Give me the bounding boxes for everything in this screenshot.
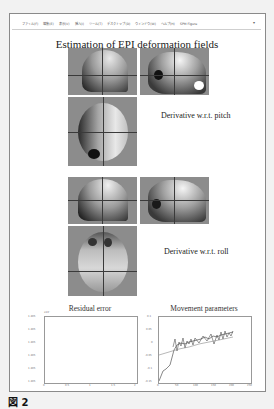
pitch-label: Derivative w.r.t. pitch bbox=[161, 111, 230, 120]
ytick: 0.1 bbox=[147, 315, 151, 318]
ytick: -0.05 bbox=[145, 354, 152, 357]
ytick: 0.05 bbox=[146, 328, 152, 331]
figure-caption: 図 2 bbox=[8, 394, 28, 409]
ytick: 1.405 bbox=[28, 315, 35, 318]
xtick: 2 bbox=[134, 384, 136, 387]
menu-file[interactable]: ファイル(F) bbox=[22, 21, 38, 26]
menu-help[interactable]: ヘルプ(H) bbox=[161, 21, 175, 26]
ytick: 1.405 bbox=[28, 380, 35, 383]
roll-derivative-axial bbox=[68, 226, 137, 296]
ytick: 1.405 bbox=[28, 367, 35, 370]
movement-parameters-title: Movement parameters bbox=[158, 304, 250, 313]
deformation-field-axial bbox=[68, 97, 137, 166]
xtick: 150 bbox=[211, 384, 216, 387]
menu-tools[interactable]: ツール(T) bbox=[89, 21, 102, 26]
xtick: 1.5 bbox=[111, 384, 115, 387]
deformation-field-sagittal bbox=[68, 48, 137, 95]
xtick: 200 bbox=[229, 384, 234, 387]
roll-derivative-coronal bbox=[140, 177, 209, 224]
roll-label: Derivative w.r.t. roll bbox=[164, 247, 229, 256]
ytick: 1.405 bbox=[28, 341, 35, 344]
movement-plot bbox=[159, 317, 251, 383]
ytick: 0 bbox=[151, 341, 153, 344]
menu-window[interactable]: ウィンドウ(W) bbox=[135, 21, 156, 26]
menu-bar: ファイル(F) 編集(E) 表示(V) 挿入(I) ツール(T) デスクトップ(… bbox=[12, 18, 261, 30]
xtick: 100 bbox=[193, 384, 198, 387]
menu-view[interactable]: 表示(V) bbox=[59, 21, 70, 26]
menu-edit[interactable]: 編集(E) bbox=[43, 21, 54, 26]
xtick: 0 bbox=[43, 384, 45, 387]
ytick: -0.15 bbox=[145, 380, 152, 383]
deformation-field-coronal bbox=[140, 48, 209, 95]
roll-derivative-sagittal bbox=[68, 177, 137, 224]
ytick: 1.405 bbox=[28, 328, 35, 331]
menu-desktop[interactable]: デスクトップ(D) bbox=[107, 21, 130, 26]
xtick: 0 bbox=[157, 384, 159, 387]
figure-title: Estimation of EPI deformation fields bbox=[0, 38, 274, 50]
xtick: 1 bbox=[89, 384, 91, 387]
movement-parameters-axes bbox=[158, 316, 252, 384]
xtick: 50 bbox=[175, 384, 178, 387]
menu-spm-figure[interactable]: SPM Figure bbox=[180, 22, 197, 26]
xtick: 250 bbox=[247, 384, 252, 387]
chevron-down-icon[interactable]: ▾ bbox=[253, 20, 255, 25]
residual-error-title: Residual error bbox=[44, 304, 136, 313]
xtick: 0.5 bbox=[65, 384, 69, 387]
residual-exponent: x10⁻ bbox=[44, 311, 50, 314]
residual-error-axes bbox=[44, 316, 138, 384]
menu-insert[interactable]: 挿入(I) bbox=[75, 21, 84, 26]
ytick: 1.405 bbox=[28, 354, 35, 357]
ytick: -0.1 bbox=[147, 367, 152, 370]
